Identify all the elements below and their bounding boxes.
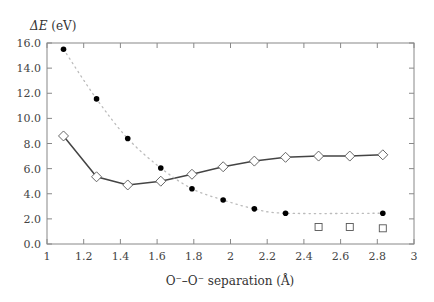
circle-marker: [283, 210, 289, 216]
circle-marker: [252, 206, 258, 212]
diamond-marker: [378, 150, 388, 160]
x-tick-label: 2: [227, 250, 234, 263]
plot-series: [59, 46, 388, 231]
diamond-marker: [218, 162, 228, 172]
y-tick-label: 6.0: [24, 163, 42, 176]
series-1: [61, 46, 386, 216]
series-0: [59, 131, 388, 190]
circle-marker: [220, 197, 226, 203]
y-tick-label: 14.0: [17, 62, 42, 75]
x-tick-label: 2.2: [258, 250, 276, 263]
y-axis-title-unit: (eV): [47, 19, 76, 33]
y-tick-label: 10.0: [17, 112, 42, 125]
chart: 11.21.41.61.822.22.42.62.830.02.04.06.08…: [0, 0, 434, 302]
y-tick-label: 0.0: [24, 238, 42, 251]
x-tick-label: 1: [44, 250, 51, 263]
circle-marker: [125, 136, 131, 142]
circle-marker: [158, 165, 164, 171]
plot-axes: 11.21.41.61.822.22.42.62.830.02.04.06.08…: [17, 37, 418, 263]
plot-frame: [47, 43, 414, 244]
diamond-marker: [123, 180, 133, 190]
x-tick-label: 2.4: [295, 250, 313, 263]
x-tick-label: 1.2: [75, 250, 93, 263]
x-tick-label: 1.4: [112, 250, 130, 263]
diamond-marker: [156, 176, 166, 186]
x-tick-label: 1.8: [185, 250, 203, 263]
series-line-dotted: [64, 49, 383, 213]
x-tick-label: 2.8: [369, 250, 387, 263]
y-tick-label: 2.0: [24, 213, 42, 226]
y-tick-label: 4.0: [24, 188, 42, 201]
x-tick-label: 2.6: [332, 250, 350, 263]
circle-marker: [380, 210, 386, 216]
diamond-marker: [314, 151, 324, 161]
x-tick-label: 1.6: [148, 250, 166, 263]
diamond-marker: [187, 169, 197, 179]
x-tick-label: 3: [411, 250, 418, 263]
y-tick-label: 16.0: [17, 37, 42, 50]
diamond-marker: [345, 151, 355, 161]
circle-marker: [189, 186, 195, 192]
square-marker: [379, 225, 386, 232]
y-tick-label: 8.0: [24, 138, 42, 151]
y-tick-label: 12.0: [17, 87, 42, 100]
x-axis-title: O⁻–O⁻ separation (Å): [166, 273, 295, 288]
series-line-solid: [64, 136, 383, 185]
square-marker: [315, 224, 322, 231]
diamond-marker: [249, 156, 259, 166]
square-marker: [346, 224, 353, 231]
y-axis-title: ΔE (eV): [29, 19, 76, 33]
y-axis-title-symbol: ΔE: [29, 19, 48, 33]
series-2: [315, 224, 386, 232]
circle-marker: [61, 46, 67, 52]
circle-marker: [94, 96, 100, 102]
diamond-marker: [281, 152, 291, 162]
